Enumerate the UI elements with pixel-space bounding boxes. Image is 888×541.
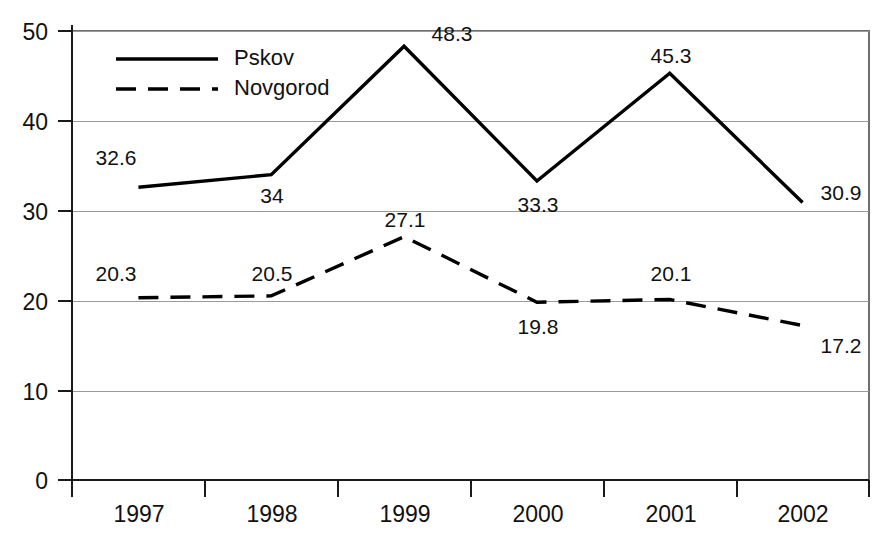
value-label-novgorod-2000: 19.8 [518, 315, 559, 338]
y-tick-label-0: 0 [35, 468, 48, 494]
x-tick-label-1997: 1997 [113, 501, 164, 527]
y-tick-label-20: 20 [22, 289, 48, 315]
value-label-novgorod-2001: 20.1 [651, 262, 692, 285]
x-tick-label-2000: 2000 [512, 501, 563, 527]
y-tick-label-40: 40 [22, 109, 48, 135]
y-tick-label-50: 50 [22, 19, 48, 45]
plot-area-border [72, 31, 869, 480]
x-tick-label-2001: 2001 [645, 501, 696, 527]
line-chart: 50 40 30 20 10 0 1997 1998 1999 2000 200… [0, 0, 888, 541]
x-tick-label-2002: 2002 [777, 501, 828, 527]
value-label-novgorod-1998: 20.5 [252, 262, 293, 285]
value-label-novgorod-1997: 20.3 [96, 262, 137, 285]
value-label-pskov-1997: 32.6 [96, 146, 137, 169]
value-label-pskov-1999: 48.3 [432, 22, 473, 45]
legend-label-novgorod: Novgorod [234, 75, 329, 100]
value-label-pskov-2001: 45.3 [651, 44, 692, 67]
y-tick-label-30: 30 [22, 199, 48, 225]
y-tick-marks [58, 31, 72, 480]
value-label-novgorod-2002: 17.2 [821, 334, 862, 357]
gridlines [72, 31, 869, 391]
value-label-novgorod-1999: 27.1 [385, 208, 426, 231]
series-line-novgorod-visible [138, 237, 802, 326]
x-tick-marks [72, 480, 869, 497]
legend-label-pskov: Pskov [234, 45, 294, 70]
legend: Pskov Novgorod [116, 45, 329, 100]
value-label-pskov-2002: 30.9 [821, 181, 862, 204]
x-tick-label-1998: 1998 [246, 501, 297, 527]
value-label-pskov-2000: 33.3 [518, 193, 559, 216]
y-tick-label-10: 10 [22, 379, 48, 405]
value-label-pskov-1998: 34 [260, 184, 284, 207]
x-tick-label-1999: 1999 [379, 501, 430, 527]
